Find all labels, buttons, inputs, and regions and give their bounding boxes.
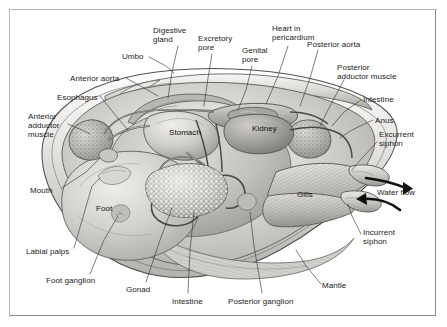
organ-label-foot: Foot bbox=[96, 204, 112, 213]
callout-label-digestive-gland: Digestive gland bbox=[153, 26, 186, 44]
callout-label-labial-palps: Labial palps bbox=[26, 247, 69, 256]
organ-label-stomach: Stomach bbox=[169, 128, 201, 137]
callout-label-posterior-ganglion: Posterior ganglion bbox=[228, 297, 293, 306]
callout-label-foot-ganglion: Foot ganglion bbox=[46, 276, 95, 285]
callout-label-mantle: Mantle bbox=[322, 281, 346, 290]
label-layer: UmboDigestive glandExcretory poreGenital… bbox=[0, 0, 447, 327]
callout-label-anterior-aorta: Anterior aorta bbox=[70, 74, 119, 83]
organ-label-gills: Gills bbox=[297, 190, 313, 199]
callout-label-water-flow: Water flow bbox=[377, 188, 415, 197]
callout-label-umbo: Umbo bbox=[122, 52, 144, 61]
callout-label-incurrent-siphon: Incurrent siphon bbox=[363, 228, 395, 246]
callout-label-intestine-lower: Intestine bbox=[172, 297, 203, 306]
callout-label-excretory-pore: Excretory pore bbox=[198, 34, 232, 52]
organ-label-kidney: Kidney bbox=[252, 124, 277, 133]
callout-label-esophagus: Esophagus bbox=[57, 93, 97, 102]
callout-label-gonad: Gonad bbox=[126, 285, 150, 294]
callout-label-posterior-aorta: Posterior aorta bbox=[307, 40, 360, 49]
callout-label-intestine-upper: Intestine bbox=[363, 95, 394, 104]
callout-label-anus: Anus bbox=[375, 116, 393, 125]
callout-label-anterior-adductor-muscle: Anterior adductor muscle bbox=[28, 112, 60, 140]
callout-label-posterior-adductor-muscle: Posterior adductor muscle bbox=[337, 63, 396, 81]
figure-root: UmboDigestive glandExcretory poreGenital… bbox=[0, 0, 447, 327]
callout-label-genital-pore: Genital pore bbox=[242, 46, 268, 64]
callout-label-mouth: Mouth bbox=[30, 186, 52, 195]
callout-label-excurrent-siphon: Excurrent siphon bbox=[379, 130, 414, 148]
